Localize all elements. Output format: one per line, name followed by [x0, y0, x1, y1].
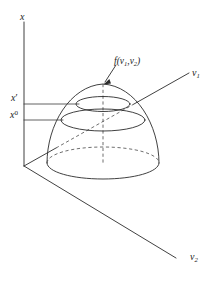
v1-axis-label: v1	[192, 68, 200, 80]
x-axis-label: x	[20, 12, 24, 22]
callout-leader-group	[104, 65, 117, 85]
level-line-group	[24, 104, 79, 120]
surface-group	[47, 84, 159, 179]
tick-label-x-prime: x′	[11, 93, 18, 103]
figure-canvas: x x′ x0 v1 v2 f(v1,v2)	[0, 0, 217, 283]
v1-axis-line-far-segment	[134, 73, 189, 104]
callout-arrowhead-icon	[104, 79, 112, 85]
v2-axis-label-subscript: 2	[194, 256, 197, 263]
axis-group	[24, 22, 189, 258]
v2-axis-label: v2	[190, 252, 198, 264]
diagram-vector-layer	[0, 0, 217, 283]
v2-axis-line	[24, 166, 176, 258]
v1-axis-label-subscript: 1	[196, 72, 199, 79]
tick-label-x-zero-mark: 0	[14, 109, 18, 117]
base-ellipse-front	[47, 163, 159, 179]
tick-label-x-prime-mark: ′	[15, 92, 17, 103]
function-label-suffix: )	[137, 56, 140, 66]
tick-label-x-zero: x0	[10, 110, 18, 120]
surface-function-label: f(v1,v2)	[114, 57, 140, 67]
callout-leader-line	[105, 65, 116, 82]
